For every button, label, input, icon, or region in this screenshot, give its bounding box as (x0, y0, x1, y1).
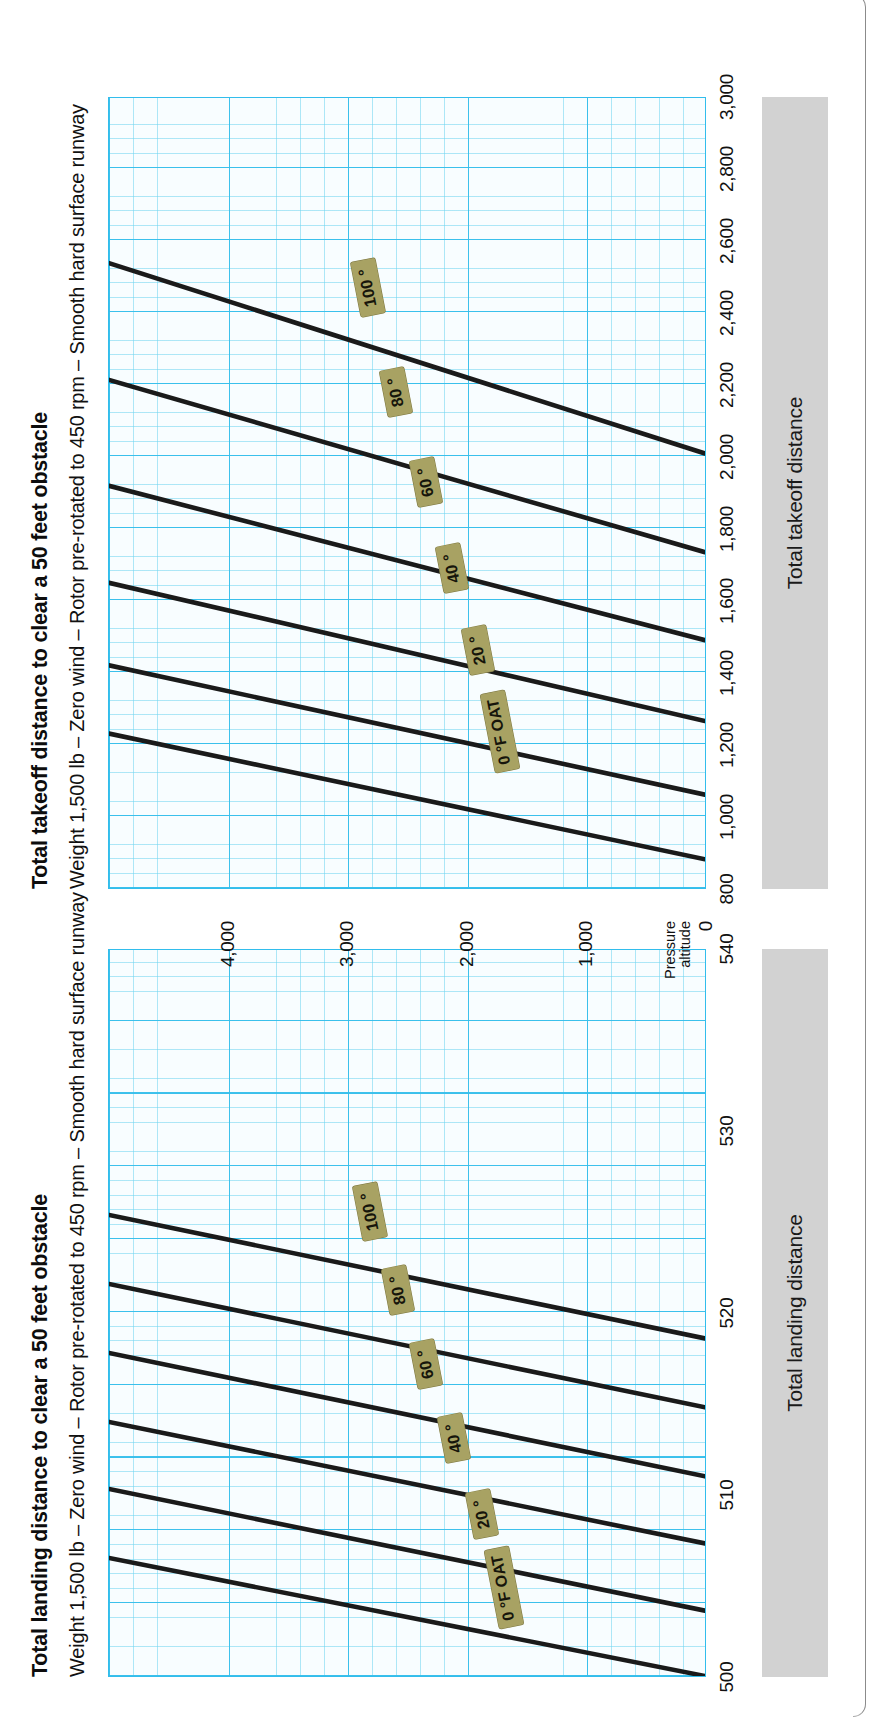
landing-chart-block: Total landing distance to clear a 50 fee… (0, 911, 870, 1711)
takeoff-xtick-2400: 2,400 (716, 290, 738, 336)
takeoff-curve-0F (109, 734, 705, 860)
landing-xtick-510: 510 (716, 1480, 738, 1511)
landing-plot-area: 0 °F OAT 20 ° 40 ° 60 ° 80 ° 100 ° (108, 949, 706, 1677)
takeoff-plot-area: 0 °F OAT 20 ° 40 ° 60 ° 80 ° 100 ° (108, 97, 706, 889)
takeoff-chart-block: Total takeoff distance to clear a 50 fee… (0, 0, 870, 911)
takeoff-xtick-1200: 1,200 (716, 722, 738, 768)
takeoff-chart-title: Total takeoff distance to clear a 50 fee… (28, 0, 53, 889)
landing-xtick-520: 520 (716, 1298, 738, 1329)
takeoff-curve-40F (109, 583, 705, 721)
landing-chart-subtitle: Weight 1,500 lb – Zero wind – Rotor pre-… (66, 877, 89, 1677)
ytick-0: 0 (695, 921, 717, 1011)
ytick-1000: 1,000 (575, 921, 597, 1011)
takeoff-xtick-2800: 2,800 (716, 146, 738, 192)
landing-xtick-540: 540 (716, 934, 738, 965)
takeoff-xtick-2600: 2,600 (716, 218, 738, 264)
takeoff-curves (109, 98, 705, 888)
takeoff-xtick-1000: 1,000 (716, 794, 738, 840)
landing-curve-60F (109, 1353, 705, 1476)
landing-caption-bar: Total landing distance (762, 949, 828, 1677)
takeoff-xtick-800: 800 (716, 874, 738, 905)
ytick-4000: 4,000 (217, 921, 239, 1011)
takeoff-xtick-1600: 1,600 (716, 578, 738, 624)
takeoff-xtick-1400: 1,400 (716, 650, 738, 696)
takeoff-xtick-2200: 2,200 (716, 362, 738, 408)
takeoff-caption-text: Total takeoff distance (783, 397, 807, 590)
landing-chart-title: Total landing distance to clear a 50 fee… (28, 877, 53, 1677)
takeoff-curve-60F (109, 486, 705, 640)
landing-curve-40F (109, 1422, 705, 1544)
takeoff-curve-100F (109, 263, 705, 453)
takeoff-curve-20F (109, 665, 705, 794)
takeoff-caption-bar: Total takeoff distance (762, 97, 828, 889)
landing-xtick-500: 500 (716, 1662, 738, 1693)
takeoff-xtick-2000: 2,000 (716, 434, 738, 480)
landing-curves (109, 950, 705, 1676)
takeoff-chart-subtitle: Weight 1,500 lb – Zero wind – Rotor pre-… (66, 0, 89, 889)
pressure-altitude-axis-label: Pressure altitude (663, 921, 693, 1021)
landing-xtick-530: 530 (716, 1116, 738, 1147)
landing-caption-text: Total landing distance (783, 1214, 807, 1412)
landing-curve-20F (109, 1489, 705, 1611)
ytick-3000: 3,000 (336, 921, 358, 1011)
landing-curve-0F (109, 1558, 705, 1676)
takeoff-xtick-1800: 1,800 (716, 506, 738, 552)
takeoff-xtick-3000: 3,000 (716, 74, 738, 120)
ytick-2000: 2,000 (456, 921, 478, 1011)
